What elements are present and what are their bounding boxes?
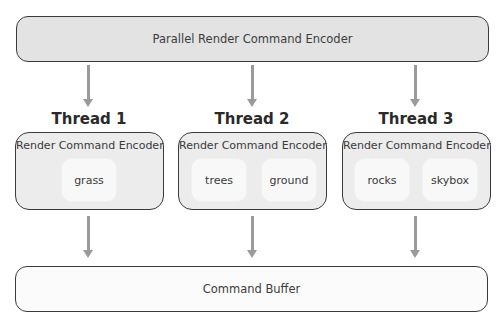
item-label: trees	[205, 174, 233, 187]
thread-1-label: Thread 1	[15, 110, 163, 128]
render-command-encoder-label: Render Command Encoder	[16, 139, 163, 152]
command-buffer-label: Command Buffer	[203, 282, 301, 296]
thread-2-render-command-encoder-box: Render Command Encoder trees ground	[178, 132, 327, 210]
parallel-render-command-encoder-label: Parallel Render Command Encoder	[153, 32, 353, 46]
thread-3-label: Thread 3	[342, 110, 490, 128]
item-label: rocks	[367, 174, 396, 187]
item-label: ground	[270, 174, 309, 187]
item-grass: grass	[62, 159, 116, 201]
render-command-encoder-label: Render Command Encoder	[343, 139, 490, 152]
command-buffer-box: Command Buffer	[15, 266, 488, 312]
thread-3-render-command-encoder-box: Render Command Encoder rocks skybox	[342, 132, 491, 210]
item-trees: trees	[192, 159, 246, 201]
render-command-encoder-label: Render Command Encoder	[179, 139, 326, 152]
thread-2-label: Thread 2	[178, 110, 326, 128]
item-skybox: skybox	[423, 159, 477, 201]
item-rocks: rocks	[355, 159, 409, 201]
item-ground: ground	[262, 159, 316, 201]
item-label: grass	[74, 174, 104, 187]
thread-1-render-command-encoder-box: Render Command Encoder grass	[15, 132, 164, 210]
item-label: skybox	[431, 174, 469, 187]
parallel-render-command-encoder-box: Parallel Render Command Encoder	[16, 16, 489, 62]
